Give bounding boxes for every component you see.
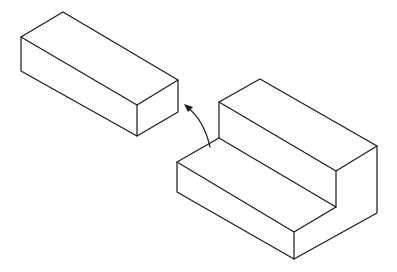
rectangular-block — [21, 12, 178, 136]
step-block — [177, 79, 377, 259]
arrow-curve — [187, 107, 210, 147]
assembly-diagram — [0, 0, 397, 272]
placement-arrow — [184, 104, 210, 147]
